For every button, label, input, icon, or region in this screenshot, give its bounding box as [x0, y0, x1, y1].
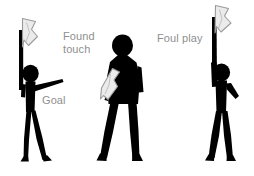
figure-foul-play	[205, 6, 239, 162]
right-foot-goal	[43, 155, 53, 161]
right-leg-foul-play	[222, 111, 233, 159]
figure-found-touch	[97, 35, 144, 162]
figure-goal	[19, 19, 64, 162]
left-leg-found-touch	[100, 102, 119, 158]
torso-foul-play	[216, 81, 228, 114]
torso-goal	[26, 82, 36, 113]
left-leg-goal	[24, 110, 32, 160]
head-foul-play	[213, 64, 230, 82]
right-leg-goal	[31, 110, 47, 160]
head-found-touch	[112, 35, 133, 57]
lowered-arm-foul-play	[226, 83, 239, 99]
flag-arm-goal	[21, 84, 26, 98]
flag-signals-illustration: Goal Found touch Foul play	[0, 0, 254, 176]
left-leg-foul-play	[209, 111, 223, 158]
head-goal	[22, 65, 38, 83]
left-foot-goal	[21, 157, 29, 162]
flag-cloth-goal	[23, 19, 38, 48]
right-foot-found-touch	[132, 154, 143, 161]
right-leg-found-touch	[128, 102, 140, 158]
label-found-touch: Found touch	[63, 30, 95, 55]
left-foot-foul-play	[205, 155, 215, 162]
label-foul-play: Foul play	[157, 32, 203, 45]
pointing-arm-goal	[34, 79, 64, 92]
label-goal: Goal	[42, 94, 66, 107]
left-foot-found-touch	[97, 154, 108, 162]
flag-cloth-foul-play	[215, 6, 231, 34]
stick-figures-artwork	[0, 0, 254, 176]
right-foot-foul-play	[227, 155, 237, 161]
